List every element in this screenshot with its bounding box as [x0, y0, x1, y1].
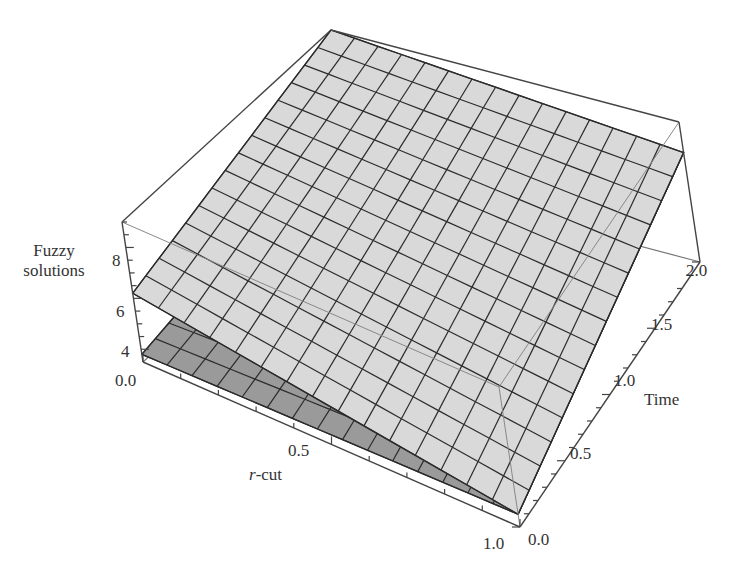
x-axis-title-var: r	[249, 465, 256, 484]
x-axis-title-suffix: -cut	[256, 465, 282, 484]
z-axis-title-line2: solutions	[14, 261, 94, 281]
y-tick-label-1: 1.0	[614, 372, 635, 389]
z-tick-label-6: 6	[116, 303, 125, 320]
z-tick-label-8: 8	[112, 252, 121, 269]
x-tick-label-0: 0.0	[115, 372, 136, 389]
y-tick-label-15: 1.5	[651, 316, 672, 333]
y-tick-label-05: 0.5	[570, 445, 591, 462]
y-tick-label-0: 0.0	[528, 531, 549, 548]
x-tick-label-05: 0.5	[288, 442, 309, 459]
z-tick-label-4: 4	[121, 343, 130, 360]
surface-plot	[0, 0, 735, 562]
y-tick-label-2: 2.0	[686, 262, 707, 279]
x-axis-title: r-cut	[249, 466, 282, 483]
upper-surface	[133, 30, 684, 514]
x-tick-label-1: 1.0	[483, 535, 504, 552]
y-axis-title: Time	[644, 391, 679, 408]
z-axis-title-line1: Fuzzy	[14, 241, 94, 261]
z-axis-title: Fuzzy solutions	[14, 241, 94, 281]
